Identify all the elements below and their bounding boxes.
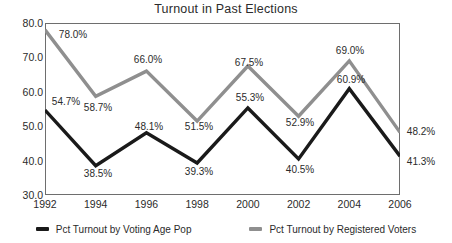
legend-item-registered-voters[interactable]: Pct Turnout by Registered Voters: [249, 224, 416, 235]
y-axis-tick-label: 80.0: [3, 17, 43, 29]
legend-swatch-icon: [249, 227, 262, 231]
data-label: 67.5%: [235, 57, 263, 68]
data-label: 48.1%: [135, 121, 163, 132]
data-label: 58.7%: [84, 102, 112, 113]
data-label: 55.3%: [236, 92, 264, 103]
line-series-voting-age-pop: [45, 89, 400, 166]
x-axis-tick-label: 2006: [370, 198, 430, 210]
legend-item-voting-age-pop[interactable]: Pct Turnout by Voting Age Pop: [36, 224, 192, 235]
y-axis-tick-label: 60.0: [3, 86, 43, 98]
data-label: 66.0%: [134, 54, 162, 65]
data-label: 41.3%: [407, 156, 435, 167]
y-axis-tick-label: 70.0: [3, 51, 43, 63]
legend-label: Pct Turnout by Voting Age Pop: [56, 224, 192, 235]
y-axis-tick-label: 40.0: [3, 155, 43, 167]
data-label: 78.0%: [59, 29, 87, 40]
chart-title: Turnout in Past Elections: [0, 2, 452, 16]
data-label: 51.5%: [185, 121, 213, 132]
y-axis-tick-label: 50.0: [3, 120, 43, 132]
data-label: 38.5%: [84, 168, 112, 179]
data-label: 60.9%: [337, 74, 365, 85]
chart-container: Turnout in Past Elections 80.0 70.0 60.0…: [0, 0, 452, 243]
data-label: 69.0%: [336, 45, 364, 56]
chart-legend: Pct Turnout by Voting Age Pop Pct Turnou…: [0, 218, 452, 240]
legend-label: Pct Turnout by Registered Voters: [269, 224, 416, 235]
data-label: 48.2%: [407, 126, 435, 137]
data-label: 54.7%: [52, 96, 80, 107]
data-label: 52.9%: [286, 117, 314, 128]
data-label: 40.5%: [286, 164, 314, 175]
data-label: 39.3%: [185, 166, 213, 177]
legend-swatch-icon: [36, 227, 49, 231]
